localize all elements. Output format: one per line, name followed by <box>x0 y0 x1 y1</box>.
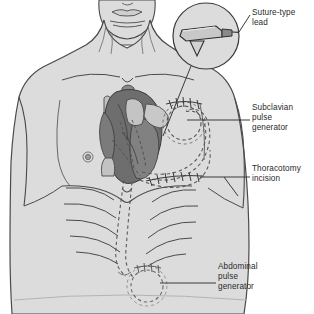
callout-thoracotomy-line2: incision <box>252 174 301 184</box>
callout-thoracotomy-incision: Thoracotomy incision <box>252 164 301 184</box>
callout-suture-type-lead-line1: Suture-type <box>252 8 295 18</box>
inset-lead-connector-tip <box>222 29 232 37</box>
callout-abdominal-line3: generator <box>218 282 258 292</box>
pulmonary-artery <box>126 99 144 126</box>
callout-subclavian-line1: Subclavian <box>252 103 293 113</box>
medical-illustration-figure: Suture-type lead Subclavian pulse genera… <box>0 0 314 314</box>
anatomy-diagram-svg <box>0 0 314 314</box>
callout-thoracotomy-line1: Thoracotomy <box>252 164 301 174</box>
callout-abdominal-pulse-generator: Abdominal pulse generator <box>218 262 258 293</box>
callout-suture-type-lead: Suture-type lead <box>252 8 295 28</box>
callout-subclavian-pulse-generator: Subclavian pulse generator <box>252 103 293 134</box>
inferior-vena-cava <box>101 158 114 176</box>
inset-detail-circle <box>173 3 240 69</box>
leader-line-suture-type-lead <box>239 15 250 32</box>
callout-suture-type-lead-line2: lead <box>252 18 295 28</box>
callout-abdominal-line1: Abdominal <box>218 262 258 272</box>
callout-subclavian-line3: generator <box>252 123 293 133</box>
callout-subclavian-line2: pulse <box>252 113 293 123</box>
callout-abdominal-line2: pulse <box>218 272 258 282</box>
